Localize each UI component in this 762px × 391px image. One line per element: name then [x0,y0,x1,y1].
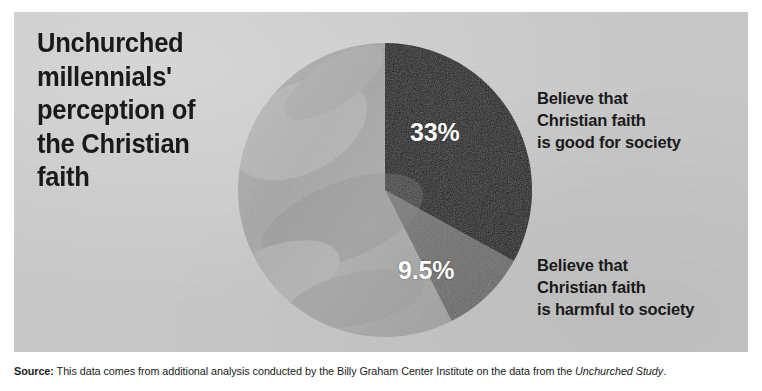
page-title: Unchurched millennials' perception of th… [37,26,237,194]
callout-label-good-for-society: Believe that Christian faith is good for… [537,87,747,153]
pie-chart [238,43,532,337]
source-label: Source: [14,365,54,377]
source-text: This data comes from additional analysis… [54,365,575,377]
source-study-title: Unchurched Study [575,365,663,377]
source-note: Source: This data comes from additional … [14,364,754,378]
pie-value-label-harmful: 9.5% [398,256,454,285]
callout-label-harmful-to-society: Believe that Christian faith is harmful … [537,254,747,320]
pie-value-label-good: 33% [410,118,459,147]
source-tail: . [663,365,666,377]
